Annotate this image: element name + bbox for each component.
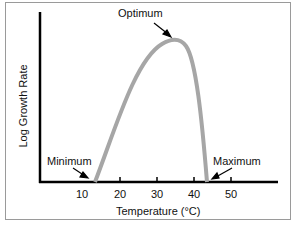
x-tick-label: 20 (114, 188, 126, 200)
x-axis-label: Temperature (°C) (116, 205, 200, 217)
annotation-optimum: Optimum (118, 7, 163, 19)
x-tick-label: 30 (151, 188, 163, 200)
growth-curve (95, 40, 207, 182)
annotation-arrows (73, 23, 232, 179)
y-axis-label: Log Growth Rate (17, 51, 29, 161)
x-tick-label: 50 (225, 188, 237, 200)
annotation-maximum: Maximum (213, 155, 261, 167)
annotation-minimum: Minimum (47, 155, 92, 167)
x-tick-label: 40 (188, 188, 200, 200)
chart-plot (0, 0, 295, 225)
x-tick-label: 10 (76, 188, 88, 200)
